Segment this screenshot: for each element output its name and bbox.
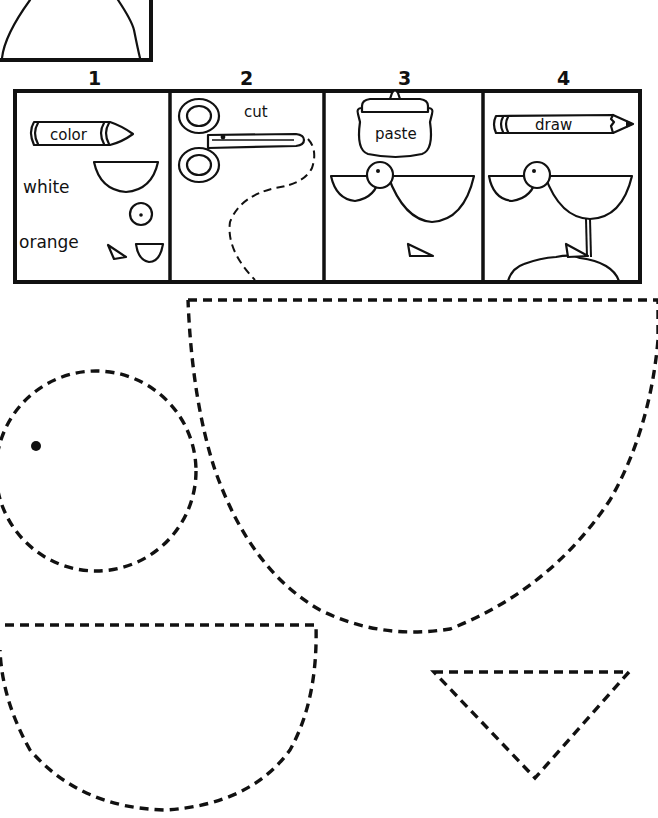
paste-jar-icon (358, 91, 433, 158)
rock-outline (2, 0, 140, 58)
step-number-2: 2 (240, 67, 253, 89)
scissors-icon (179, 99, 304, 182)
cut-path-dashed (230, 139, 315, 280)
color-label: color (50, 126, 88, 144)
white-label: white (23, 177, 70, 197)
body-shape-preview (94, 162, 158, 192)
step-number-1: 1 (88, 67, 101, 89)
step-number-4: 4 (557, 67, 570, 89)
orange-label: orange (19, 232, 79, 252)
step-panel-1: color white orange (19, 122, 163, 262)
cutout-body-half-circle[interactable] (188, 300, 658, 632)
finished-bird-preview (489, 162, 632, 281)
paste-label: paste (375, 125, 417, 143)
cutout-wing-half-circle[interactable] (0, 625, 316, 810)
eye-dot (31, 441, 41, 451)
draw-label: draw (535, 116, 572, 134)
pasted-bird-preview (331, 162, 474, 256)
step-panel-2: cut (179, 99, 314, 280)
wing-shape-preview (136, 244, 163, 262)
beak-shape-preview (108, 245, 126, 259)
step-panel-4: draw (489, 115, 634, 281)
previous-panel-fragment (0, 0, 151, 62)
cutout-beak-triangle[interactable] (434, 672, 629, 778)
cutout-head-circle[interactable] (0, 371, 196, 571)
worksheet-canvas: 1 2 3 4 color white orange (0, 0, 658, 818)
step-panel-3: paste (331, 91, 474, 257)
cut-label: cut (244, 103, 268, 121)
step-number-3: 3 (398, 67, 411, 89)
